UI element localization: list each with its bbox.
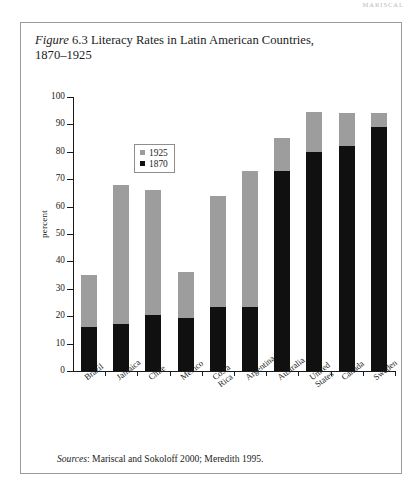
bar[interactable] — [274, 97, 290, 371]
bar-segment-1870[interactable] — [242, 307, 258, 371]
legend-label: 1870 — [149, 159, 168, 169]
bar[interactable] — [145, 97, 161, 371]
figure-frame: Figure 6.3 Literacy Rates in Latin Ameri… — [20, 22, 402, 474]
x-tick-mark — [202, 371, 203, 376]
legend-entry[interactable]: 1870 — [140, 158, 168, 169]
plot-area: 0102030405060708090100 percent BrazilJam… — [21, 23, 403, 475]
bar-group[interactable] — [202, 97, 234, 371]
bars-container — [73, 97, 395, 371]
bar[interactable] — [113, 97, 129, 371]
bar-segment-1870[interactable] — [339, 146, 355, 371]
x-tick-mark — [395, 371, 396, 376]
y-tick-label: 100 — [21, 92, 65, 101]
bar-segment-1870[interactable] — [371, 127, 387, 371]
x-tick-mark — [266, 371, 267, 376]
legend-entry[interactable]: 1925 — [140, 147, 168, 158]
bar-group[interactable] — [137, 97, 169, 371]
sources-label: Sources — [57, 453, 87, 464]
bar-group[interactable] — [298, 97, 330, 371]
y-tick-mark — [67, 371, 73, 372]
x-tick-mark — [170, 371, 171, 376]
running-header: MARISCAL — [0, 0, 420, 16]
x-tick-mark — [298, 371, 299, 376]
bar-group[interactable] — [331, 97, 363, 371]
y-tick-label: 30 — [21, 284, 65, 293]
legend-label: 1925 — [149, 148, 168, 158]
sources-text: : Mariscal and Sokoloff 2000; Meredith 1… — [87, 453, 263, 464]
y-tick-label: 0 — [21, 366, 65, 375]
bar-group[interactable] — [73, 97, 105, 371]
bar-group[interactable] — [266, 97, 298, 371]
x-tick-mark — [137, 371, 138, 376]
figure-sources: Sources: Mariscal and Sokoloff 2000; Mer… — [57, 453, 387, 465]
bar-segment-1870[interactable] — [210, 307, 226, 371]
legend-swatch-icon — [140, 150, 145, 155]
x-tick-mark — [363, 371, 364, 376]
bar-segment-1870[interactable] — [274, 171, 290, 371]
y-tick-label: 90 — [21, 119, 65, 128]
x-tick-mark — [105, 371, 106, 376]
bar-group[interactable] — [363, 97, 395, 371]
y-tick-label: 80 — [21, 147, 65, 156]
bar-segment-1870[interactable] — [306, 152, 322, 371]
bar[interactable] — [210, 97, 226, 371]
bar[interactable] — [242, 97, 258, 371]
y-tick-label: 70 — [21, 174, 65, 183]
bar[interactable] — [339, 97, 355, 371]
y-axis-label: percent — [39, 189, 49, 259]
chart-legend: 19251870 — [134, 144, 175, 173]
bar-group[interactable] — [234, 97, 266, 371]
y-tick-label: 20 — [21, 311, 65, 320]
bar[interactable] — [178, 97, 194, 371]
legend-swatch-icon — [140, 161, 145, 166]
bar[interactable] — [81, 97, 97, 371]
bar[interactable] — [306, 97, 322, 371]
bar[interactable] — [371, 97, 387, 371]
y-tick-label: 10 — [21, 339, 65, 348]
bar-group[interactable] — [105, 97, 137, 371]
bar-group[interactable] — [170, 97, 202, 371]
